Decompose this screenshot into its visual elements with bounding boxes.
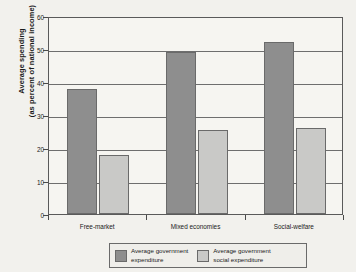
legend-swatch-icon-light [197, 250, 209, 262]
y-axis-tick-label: 60 [24, 14, 44, 21]
bar [264, 42, 294, 214]
legend-label-line1: Average government [131, 247, 188, 255]
bar [296, 128, 326, 214]
bar [166, 52, 196, 214]
legend-label-line2: expenditure [131, 256, 188, 264]
y-axis-tick-label: 20 [24, 146, 44, 153]
gridline [49, 51, 342, 52]
x-axis-tick-mark [146, 215, 147, 220]
legend-swatch-icon-dark [115, 250, 127, 262]
y-axis-tick-label: 10 [24, 179, 44, 186]
legend-entry-government-expenditure: Average government expenditure [115, 247, 188, 263]
legend-label-government-expenditure: Average government expenditure [131, 247, 188, 263]
bar [198, 130, 228, 214]
bar-chart: Average spending (as percent of national… [0, 0, 356, 272]
legend-label-line1: Average government [213, 247, 270, 255]
x-axis-category-label: Social-welfare [274, 223, 314, 230]
legend-entry-social-expenditure: Average government social expenditure [197, 247, 270, 263]
y-axis-tick-label: 40 [24, 80, 44, 87]
bar [99, 155, 129, 214]
legend-label-line2: social expenditure [213, 256, 270, 264]
x-axis-category-label: Free-market [80, 223, 115, 230]
gridline [49, 84, 342, 85]
bar [67, 89, 97, 214]
plot-area [48, 17, 343, 215]
x-axis-category-label: Mixed economies [171, 223, 221, 230]
chart-legend: Average government expenditure Average g… [109, 243, 307, 268]
y-axis-tick-label: 30 [24, 113, 44, 120]
y-axis-tick-label: 0 [24, 212, 44, 219]
y-axis-tick-label: 50 [24, 47, 44, 54]
x-axis-tick-mark [48, 215, 49, 220]
x-axis-tick-mark [343, 215, 344, 220]
legend-label-social-expenditure: Average government social expenditure [213, 247, 270, 263]
x-axis-tick-mark [245, 215, 246, 220]
